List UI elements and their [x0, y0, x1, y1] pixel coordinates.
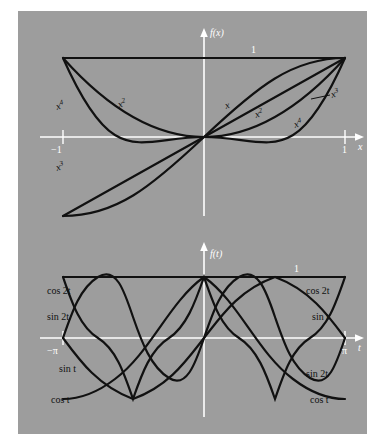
trig-functions-chart: f(t) t 1 −π π cos 2t sin 2t sin t cos t …: [18, 11, 367, 434]
bottom-label-right-cos2t: cos 2t: [306, 285, 330, 296]
figure-root: f(x) x 1 −1 1 x4 x2 x3 x x2 x3 x4: [0, 0, 385, 445]
bottom-tick-negpi: −π: [47, 345, 58, 356]
bottom-label-left-cost: cos t: [51, 394, 70, 405]
figure-panel: f(x) x 1 −1 1 x4 x2 x3 x x2 x3 x4: [18, 11, 367, 434]
bottom-xaxis-label: t: [358, 342, 361, 353]
bottom-tick-pospi: π: [342, 345, 347, 356]
bottom-label-right-cost: cos t: [310, 394, 329, 405]
bottom-label-left-cos2t: cos 2t: [47, 285, 71, 296]
bottom-label-right-sint: sin t: [312, 311, 329, 322]
bottom-label-left-sint: sin t: [59, 363, 76, 374]
bottom-label-right-sin2t: sin 2t: [306, 368, 328, 379]
bottom-yaxis-label: f(t): [210, 248, 223, 260]
bottom-one-label: 1: [294, 263, 299, 274]
bottom-label-left-sin2t: sin 2t: [47, 311, 69, 322]
